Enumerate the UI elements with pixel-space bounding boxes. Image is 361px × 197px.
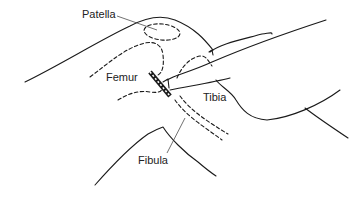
- wrist-line: [305, 108, 348, 138]
- knee-anatomy-diagram: Patella Femur Tibia Fibula: [0, 0, 361, 197]
- femur-outline-lower: [118, 88, 162, 100]
- finger-lower: [170, 78, 230, 90]
- finger-nail: [209, 50, 213, 55]
- tibia-outline-upper: [177, 56, 212, 78]
- label-patella: Patella: [82, 8, 117, 20]
- label-tibia: Tibia: [203, 91, 227, 103]
- label-fibula: Fibula: [138, 154, 169, 166]
- tibia-outline-2: [175, 100, 222, 140]
- label-femur: Femur: [106, 71, 138, 83]
- patella-outline: [143, 22, 180, 42]
- hand-contour: [216, 80, 340, 120]
